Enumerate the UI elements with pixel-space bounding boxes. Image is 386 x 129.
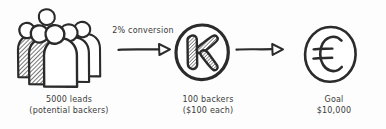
person-back-top (39, 9, 55, 25)
caption-leads: 5000 leads (potential backers) (0, 94, 138, 116)
caption-goal-line2: $10,000 (282, 105, 386, 116)
arrow-right-icon-1 (119, 44, 171, 55)
caption-backers: 100 backers ($100 each) (148, 94, 268, 116)
conversion-label-text: 2% conversion (112, 26, 174, 35)
caption-leads-line1: 5000 leads (0, 94, 138, 105)
caption-goal-line1: Goal (282, 94, 386, 105)
euro-coin-icon (305, 27, 356, 82)
conversion-label: 2% conversion (100, 26, 186, 35)
caption-leads-line2: (potential backers) (0, 105, 138, 116)
caption-backers-line2: ($100 each) (148, 105, 268, 116)
caption-backers-line1: 100 backers (148, 94, 268, 105)
funnel-diagram: 2% conversion 5000 leads (potential back… (0, 0, 386, 129)
caption-goal: Goal $10,000 (282, 94, 386, 116)
people-group-icon (18, 9, 100, 86)
arrow-right-icon-2 (237, 44, 284, 55)
